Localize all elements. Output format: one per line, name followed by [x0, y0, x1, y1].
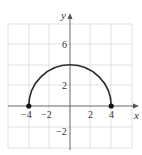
- x-tick-label: 2: [88, 109, 93, 120]
- x-tick-label: −2: [41, 109, 52, 120]
- y-tick-label: −2: [56, 126, 67, 137]
- x-axis-label: x: [133, 109, 139, 121]
- axes: [8, 13, 139, 150]
- endpoint-right: [109, 103, 114, 108]
- chart: −4 −2 2 4 −2 2 6 x y: [0, 0, 142, 155]
- x-tick-label: −4: [21, 109, 32, 120]
- x-axis-arrow-icon: [133, 104, 139, 109]
- endpoint-left: [26, 103, 31, 108]
- y-tick-label: 6: [62, 39, 67, 50]
- y-axis-label: y: [60, 9, 66, 21]
- y-axis-arrow-icon: [68, 13, 73, 19]
- y-tick-label: 2: [62, 80, 67, 91]
- x-tick-label: 4: [109, 109, 114, 120]
